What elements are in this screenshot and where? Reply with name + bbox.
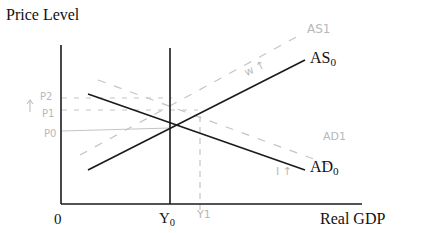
as1-curve bbox=[80, 35, 300, 155]
ad0-label: AD0 bbox=[310, 158, 339, 177]
ad0-curve bbox=[88, 94, 305, 170]
investment-increase-annotation: I ↑ bbox=[276, 165, 292, 178]
as1-label: AS1 bbox=[307, 22, 330, 36]
y-axis-label: Price Level bbox=[6, 6, 79, 24]
y0-label: Y0 bbox=[159, 210, 175, 228]
ink-layer bbox=[61, 45, 362, 204]
p0-guide bbox=[62, 128, 170, 131]
as-ad-diagram: Price Level Real GDP 0 Y0 AS0 AD0 AS1 AD… bbox=[0, 0, 428, 233]
ad1-label: AD1 bbox=[323, 130, 346, 143]
as0-curve bbox=[88, 60, 305, 170]
p1-label: P1 bbox=[42, 108, 54, 119]
p0-label: P0 bbox=[44, 128, 56, 139]
y1-label: Y1 bbox=[197, 208, 211, 221]
diagram-svg bbox=[0, 0, 428, 233]
origin-label: 0 bbox=[54, 211, 62, 228]
x-axis-label: Real GDP bbox=[320, 210, 385, 228]
as0-label: AS0 bbox=[310, 49, 336, 68]
p2-label: P2 bbox=[40, 91, 52, 102]
pencil-layer bbox=[27, 35, 330, 210]
ad1-curve bbox=[98, 80, 330, 165]
